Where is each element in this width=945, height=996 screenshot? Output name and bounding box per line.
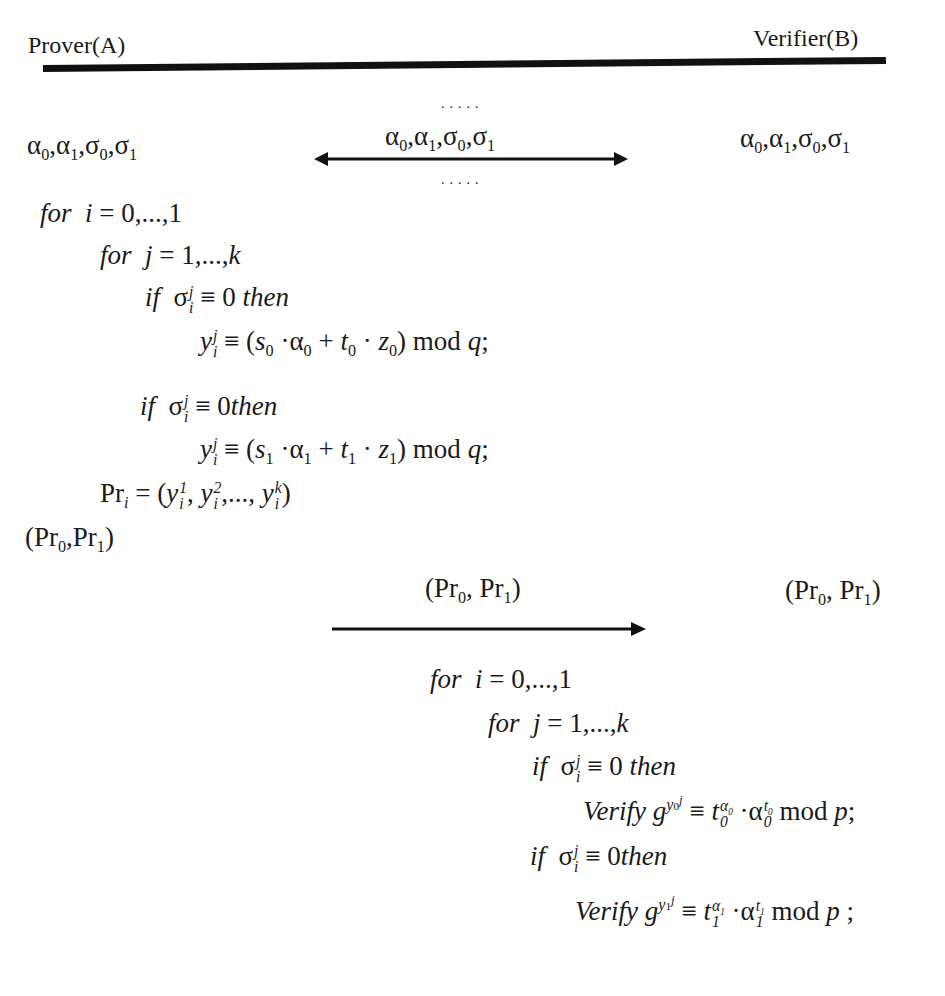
verifier-if-1: if σji ≡ 0 then	[532, 753, 676, 784]
verifier-check-0: Verify gy0j ≡ tα00 ·αt00 mod p;	[583, 798, 855, 829]
prover-loop-i: for i = 0,...,1	[40, 200, 182, 227]
header-divider	[43, 57, 886, 72]
prover-initial-values: α0,α1,σ0,σ1	[27, 132, 137, 159]
prover-label: Prover(A)	[28, 32, 125, 59]
verifier-check-1: Verify gy1j ≡ tα11 ·αt11 mod p ;	[575, 898, 854, 929]
verifier-loop-i: for i = 0,...,1	[430, 666, 572, 693]
exchange2-message: (Pr0, Pr1)	[425, 575, 521, 602]
dots-above: .....	[441, 96, 484, 112]
verifier-received: (Pr0, Pr1)	[785, 577, 881, 604]
verifier-loop-j: for j = 1,...,k	[488, 710, 629, 737]
prover-response-0: yji ≡ (s0 ·α0 + t0 · z0) mod q;	[200, 328, 489, 359]
prover-if-1: if σji ≡ 0 then	[145, 284, 289, 315]
prover-loop-j: for j = 1,...,k	[100, 242, 241, 269]
prover-proof-vector: Pri = (y1i, y2i,..., yki)	[100, 480, 291, 511]
prover-output: (Pr0,Pr1)	[25, 524, 114, 551]
verifier-label: Verifier(B)	[753, 25, 858, 52]
verifier-if-2: if σji ≡ 0then	[530, 843, 667, 874]
dots-below: .....	[441, 172, 484, 188]
prover-response-1: yji ≡ (s1 ·α1 + t1 · z1) mod q;	[200, 436, 489, 467]
cropped-caption	[330, 988, 945, 996]
right-arrow-icon	[332, 620, 648, 638]
bidirectional-arrow-icon	[314, 150, 630, 168]
prover-if-2: if σji ≡ 0then	[140, 393, 277, 424]
verifier-initial-values: α0,α1,σ0,σ1	[740, 125, 850, 152]
exchange1-message: α0,α1,σ0,σ1	[385, 123, 495, 150]
